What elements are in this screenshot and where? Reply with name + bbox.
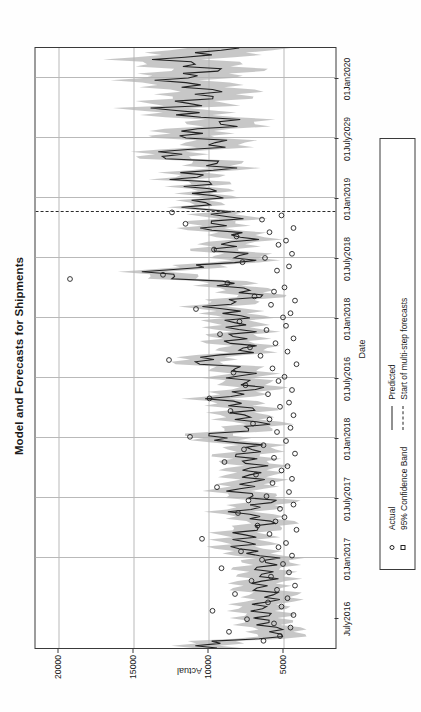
y-tick-mark	[207, 649, 208, 653]
x-tick-mark	[334, 378, 338, 379]
x-tick-mark	[334, 258, 338, 259]
actual-data-point	[288, 311, 293, 316]
x-axis-title: Date	[356, 49, 366, 649]
actual-data-point	[283, 323, 288, 328]
actual-data-point	[291, 336, 296, 341]
actual-data-point	[283, 439, 288, 444]
actual-data-point	[268, 302, 273, 307]
actual-data-point	[291, 502, 296, 507]
actual-data-point	[219, 566, 224, 571]
actual-data-point	[285, 349, 290, 354]
legend-label-confidence-band: 95% Confidence Band	[399, 447, 408, 530]
dashed-line-icon	[402, 405, 403, 431]
actual-data-point	[277, 404, 282, 409]
actual-data-point	[289, 251, 294, 256]
x-tick-mark	[334, 318, 338, 319]
actual-data-point	[288, 425, 293, 430]
chart-figure: Model and Forecasts for Shipments July20…	[0, 0, 421, 712]
actual-data-point	[183, 221, 188, 226]
open-circle-marker-icon	[389, 535, 394, 561]
actual-data-point	[276, 242, 281, 247]
actual-data-point	[294, 527, 299, 532]
legend-label-predicted: Predicted	[387, 364, 396, 399]
x-tick-label: 01July2018	[341, 237, 351, 281]
x-tick-label: 01Jan2018	[341, 418, 351, 461]
actual-data-point	[67, 277, 72, 282]
y-axis-title: Actual	[144, 666, 234, 676]
y-tick-mark	[282, 649, 283, 653]
actual-data-point	[291, 226, 296, 231]
actual-data-point	[292, 298, 297, 303]
actual-data-point	[270, 366, 275, 371]
x-tick-mark	[334, 78, 338, 79]
legend-label-actual: Actual	[387, 507, 396, 530]
chart-title: Model and Forecasts for Shipments	[12, 0, 24, 712]
actual-data-point	[282, 285, 287, 290]
legend-column-lines: Predicted Start of multi-step forecasts	[387, 290, 408, 439]
actual-data-point	[283, 541, 288, 546]
x-tick-mark	[334, 558, 338, 559]
x-tick-label: July2016	[341, 602, 351, 636]
actual-data-point	[283, 238, 288, 243]
actual-data-point	[226, 629, 231, 634]
x-tick-label: 01Jan2020	[341, 58, 351, 101]
actual-data-point	[289, 388, 294, 393]
x-tick-mark	[334, 138, 338, 139]
actual-data-point	[166, 358, 171, 363]
legend-item-actual: Actual	[387, 447, 396, 561]
x-tick-mark	[334, 618, 338, 619]
y-tick-mark	[57, 649, 58, 653]
x-tick-mark	[334, 498, 338, 499]
actual-data-point	[280, 315, 285, 320]
chart-series-layer	[35, 48, 335, 648]
actual-data-point	[289, 476, 294, 481]
forecast-start-divider	[35, 211, 335, 212]
actual-data-point	[279, 213, 284, 218]
actual-data-point	[276, 545, 281, 550]
open-square-marker-icon	[400, 535, 405, 561]
actual-data-point	[292, 451, 297, 456]
actual-data-point	[282, 515, 287, 520]
x-tick-mark	[334, 198, 338, 199]
x-tick-label: 01Jan2017	[341, 538, 351, 581]
legend-item-confidence-band: 95% Confidence Band	[399, 447, 408, 561]
chart-legend: Actual 95% Confidence Band Predicted Sta…	[379, 138, 415, 570]
actual-data-point	[286, 264, 291, 269]
actual-data-point	[258, 353, 263, 358]
actual-data-point	[286, 400, 291, 405]
y-tick-label: 5000	[277, 655, 287, 687]
rotated-figure-wrapper: Model and Forecasts for Shipments July20…	[0, 0, 421, 712]
actual-data-point	[274, 268, 279, 273]
actual-data-point	[273, 341, 278, 346]
actual-data-point	[286, 490, 291, 495]
x-tick-label: 01July2029	[341, 117, 351, 161]
actual-data-point	[282, 374, 287, 379]
x-tick-label: 01Jan2018	[341, 298, 351, 341]
actual-data-point	[274, 430, 279, 435]
actual-data-point	[276, 379, 281, 384]
y-tick-label: 15000	[127, 655, 137, 687]
x-tick-label: 01Jan2019	[341, 178, 351, 221]
x-tick-mark	[334, 438, 338, 439]
y-tick-mark	[132, 649, 133, 653]
y-tick-label: 20000	[52, 655, 62, 687]
actual-data-point	[259, 217, 264, 222]
actual-data-point	[199, 536, 204, 541]
actual-data-point	[294, 362, 299, 367]
actual-data-point	[210, 608, 215, 613]
actual-data-point	[292, 583, 297, 588]
actual-data-point	[271, 289, 276, 294]
solid-line-icon	[391, 405, 392, 431]
x-tick-label: 01July2016	[341, 357, 351, 401]
actual-data-point	[291, 413, 296, 418]
legend-item-forecast-start: Start of multi-step forecasts	[399, 298, 408, 431]
actual-data-point	[232, 592, 237, 597]
actual-data-point	[267, 230, 272, 235]
legend-column-markers: Actual 95% Confidence Band	[387, 439, 408, 569]
plot-area	[34, 47, 336, 649]
legend-label-forecast-start: Start of multi-step forecasts	[399, 298, 408, 400]
x-tick-label: 01July2017	[341, 477, 351, 521]
legend-item-predicted: Predicted	[387, 298, 396, 431]
